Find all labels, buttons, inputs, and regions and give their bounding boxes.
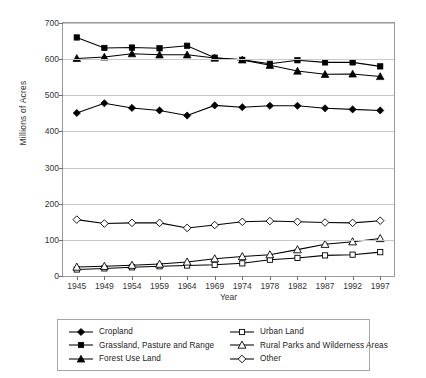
y-tick-label: 400: [45, 126, 59, 136]
filled-diamond-legend-marker: [68, 326, 94, 338]
gridline: [63, 204, 394, 205]
legend-item-label: Grassland, Pasture and Range: [99, 341, 214, 350]
open-diamond-marker: [211, 221, 219, 229]
gridline: [63, 59, 394, 60]
gridline: [63, 240, 394, 241]
y-tick-mark: [59, 204, 63, 205]
filled-square-legend-marker: [68, 339, 94, 351]
filled-square-marker: [378, 64, 383, 69]
y-tick-mark: [59, 240, 63, 241]
series-cropland: [73, 100, 384, 119]
filled-diamond-marker: [77, 328, 84, 335]
gridline: [63, 131, 394, 132]
plot-svg: [63, 23, 394, 276]
series-urban-land: [74, 250, 383, 273]
open-square-legend-marker: [229, 326, 255, 338]
open-triangle-legend-marker: [229, 339, 255, 351]
y-tick-mark: [59, 59, 63, 60]
legend-item-label: Cropland: [99, 327, 133, 336]
x-tick-mark: [242, 276, 243, 280]
x-tick-label: 1997: [371, 281, 390, 291]
x-tick-mark: [77, 276, 78, 280]
chart-figure: Millions of Acres 0100200300400500600700…: [0, 0, 426, 312]
x-tick-mark: [215, 276, 216, 280]
legend-item-label: Urban Land: [260, 327, 304, 336]
filled-square-marker: [74, 35, 79, 40]
series-line: [77, 54, 380, 77]
y-tick-label: 500: [45, 90, 59, 100]
legend-item[interactable]: Cropland: [68, 325, 214, 339]
series-other: [73, 216, 384, 232]
filled-diamond-marker: [321, 105, 328, 112]
y-tick-mark: [59, 276, 63, 277]
x-tick-mark: [132, 276, 133, 280]
open-diamond-marker: [183, 224, 191, 232]
open-diamond-marker: [73, 216, 81, 224]
filled-diamond-marker: [349, 106, 356, 113]
legend-item[interactable]: Grassland, Pasture and Range: [68, 339, 214, 353]
filled-diamond-marker: [266, 102, 273, 109]
open-diamond-marker: [238, 218, 246, 226]
filled-diamond-marker: [294, 102, 301, 109]
legend-item[interactable]: Other: [229, 352, 388, 366]
legend-item-label: Rural Parks and Wilderness Areas: [260, 341, 388, 350]
open-diamond-marker: [156, 219, 164, 227]
chart-legend: CroplandGrassland, Pasture and RangeFore…: [57, 319, 370, 371]
filled-square-marker: [78, 343, 83, 348]
filled-diamond-marker: [211, 102, 218, 109]
open-square-marker: [240, 261, 245, 266]
filled-square-marker: [350, 60, 355, 65]
open-diamond-marker: [266, 217, 274, 225]
chart-page: Millions of Acres 0100200300400500600700…: [0, 0, 426, 378]
y-tick-label: 300: [45, 163, 59, 173]
series-line: [77, 37, 380, 66]
x-tick-mark: [160, 276, 161, 280]
filled-diamond-marker: [101, 100, 108, 107]
x-tick-mark: [187, 276, 188, 280]
open-diamond-marker: [349, 219, 357, 227]
filled-diamond-marker: [73, 109, 80, 116]
y-tick-label: 600: [45, 54, 59, 64]
filled-diamond-marker: [377, 107, 384, 114]
x-tick-mark: [270, 276, 271, 280]
open-diamond-marker: [238, 355, 246, 363]
x-tick-label: 1945: [67, 281, 86, 291]
open-diamond-marker: [376, 217, 384, 225]
x-tick-label: 1954: [122, 281, 141, 291]
x-tick-label: 1949: [95, 281, 114, 291]
open-square-marker: [239, 329, 244, 334]
filled-square-marker: [102, 45, 107, 50]
series-forest-use-land: [73, 50, 384, 80]
plot-area: 0100200300400500600700194519491954195919…: [62, 22, 395, 277]
x-tick-mark: [325, 276, 326, 280]
x-tick-label: 1969: [205, 281, 224, 291]
open-diamond-marker: [128, 219, 136, 227]
x-tick-label: 1964: [178, 281, 197, 291]
y-tick-label: 100: [45, 235, 59, 245]
filled-square-marker: [157, 46, 162, 51]
filled-square-marker: [322, 60, 327, 65]
x-tick-label: 1974: [233, 281, 252, 291]
filled-diamond-marker: [184, 112, 191, 119]
open-square-marker: [295, 255, 300, 260]
y-tick-mark: [59, 95, 63, 96]
y-tick-mark: [59, 168, 63, 169]
x-tick-label: 1978: [260, 281, 279, 291]
x-axis-title: Year: [62, 292, 395, 302]
filled-diamond-marker: [128, 104, 135, 111]
gridline: [63, 168, 394, 169]
filled-diamond-marker: [239, 104, 246, 111]
legend-item[interactable]: Urban Land: [229, 325, 388, 339]
x-tick-mark: [353, 276, 354, 280]
open-square-marker: [350, 252, 355, 257]
legend-item[interactable]: Forest Use Land: [68, 352, 214, 366]
filled-square-marker: [184, 43, 189, 48]
filled-triangle-legend-marker: [68, 353, 94, 365]
y-tick-mark: [59, 131, 63, 132]
legend-item[interactable]: Rural Parks and Wilderness Areas: [229, 339, 388, 353]
open-diamond-marker: [101, 220, 109, 228]
y-axis-title: Millions of Acres: [18, 68, 28, 158]
x-tick-label: 1982: [288, 281, 307, 291]
y-tick-label: 0: [54, 271, 59, 281]
open-diamond-legend-marker: [229, 353, 255, 365]
